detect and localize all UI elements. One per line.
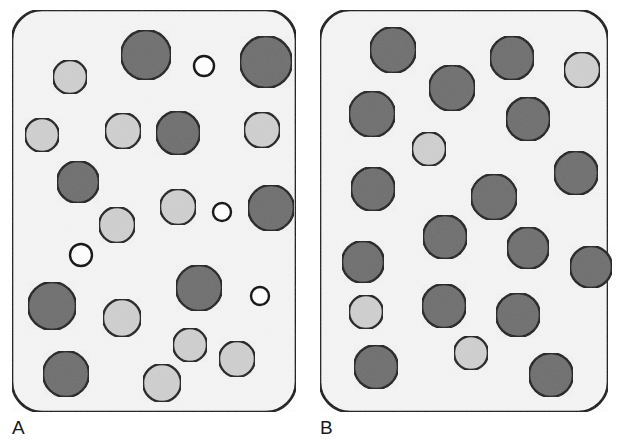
particle-light <box>103 299 141 337</box>
particle-light <box>244 112 280 148</box>
particle-dark <box>554 151 598 195</box>
particle-dark <box>490 36 534 80</box>
particle-light <box>173 328 207 362</box>
particle-dark <box>43 351 89 397</box>
panel-a-drawing <box>0 0 636 440</box>
particle-white <box>251 287 269 305</box>
particle-dark <box>570 246 612 288</box>
particle-dark <box>28 282 76 330</box>
particle-dark <box>496 293 540 337</box>
particle-light <box>160 189 196 225</box>
particle-light <box>53 60 87 94</box>
particle-dark <box>423 215 467 259</box>
particle-light <box>219 341 255 377</box>
particle-light <box>143 364 181 402</box>
particle-dark <box>349 91 395 137</box>
particle-light <box>105 113 141 149</box>
particle-light <box>25 118 59 152</box>
panel-a-label: A <box>12 418 25 437</box>
particle-light <box>349 295 383 329</box>
particle-dark <box>507 227 549 269</box>
particle-dark <box>471 174 517 220</box>
particle-white <box>194 56 214 76</box>
figure-root: A B <box>0 0 636 440</box>
particle-dark <box>156 111 200 155</box>
particle-dark <box>354 345 398 389</box>
particle-dark <box>351 167 395 211</box>
panel-a <box>12 10 296 412</box>
panel-b <box>320 10 612 412</box>
particle-light <box>99 207 135 243</box>
particle-dark <box>248 185 294 231</box>
particle-white <box>213 203 231 221</box>
panel-b-label: B <box>320 418 333 437</box>
particle-dark <box>422 284 466 328</box>
particle-light <box>564 52 600 88</box>
particle-dark <box>370 27 416 73</box>
particle-dark <box>429 65 475 111</box>
particle-dark <box>240 36 292 88</box>
particle-light <box>454 336 488 370</box>
particle-dark <box>121 30 171 80</box>
particle-dark <box>506 97 550 141</box>
particle-white <box>70 244 92 266</box>
particle-dark <box>342 241 384 283</box>
particle-dark <box>529 353 573 397</box>
panel-a-container <box>0 0 636 440</box>
particle-light <box>412 132 446 166</box>
particle-dark <box>57 161 99 203</box>
particle-dark <box>176 265 222 311</box>
